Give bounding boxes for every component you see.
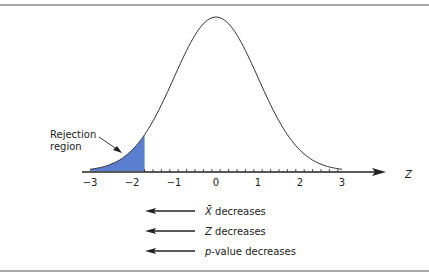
legend-row-z: Z decreases — [145, 226, 266, 237]
tick-label: −3 — [83, 177, 98, 188]
tick-label: 2 — [297, 177, 303, 188]
svg-text:p-value decreases: p-value decreases — [204, 246, 296, 257]
svg-text:Z decreases: Z decreases — [204, 226, 266, 237]
legend-symbol: p — [204, 246, 211, 257]
tick-label: 0 — [213, 177, 219, 188]
legend-text: decreases — [212, 226, 266, 237]
tick-label: −2 — [125, 177, 140, 188]
svg-text:X̄ decreases: X̄ decreases — [204, 205, 266, 217]
legend-text: decreases — [212, 206, 266, 217]
figure-canvas: −3 −2 −1 0 1 2 3 Z Rejection region X̄ d… — [0, 0, 429, 279]
legend-row-pvalue: p-value decreases — [145, 246, 296, 257]
annotation-line2: region — [50, 141, 82, 152]
rejection-region-shade — [90, 135, 145, 171]
tick-label: 3 — [339, 177, 345, 188]
legend-text: -value decreases — [211, 246, 296, 257]
legend-row-xbar: X̄ decreases — [145, 205, 266, 217]
axis-label: Z — [404, 169, 413, 180]
normal-curve — [90, 17, 342, 169]
annotation-line1: Rejection — [50, 129, 96, 140]
tick-label: −1 — [167, 177, 182, 188]
tick-label: 1 — [255, 177, 261, 188]
